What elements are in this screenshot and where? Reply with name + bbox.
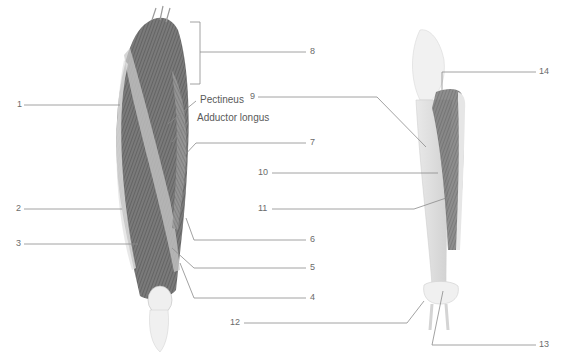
label-11: 11: [258, 204, 267, 213]
anterior-thigh-illustration: [116, 6, 188, 352]
anatomy-diagram: Pectineus Adductor longus 1 2 3 4 5 6 7 …: [0, 0, 565, 362]
leader-7: [182, 143, 306, 158]
label-3: 3: [16, 239, 21, 248]
label-9: 9: [250, 92, 255, 101]
label-pectineus: Pectineus: [200, 95, 244, 105]
label-12: 12: [230, 318, 240, 327]
knee-joint: [149, 310, 168, 352]
label-4: 4: [310, 293, 315, 302]
leader-12: [244, 301, 424, 323]
pelvis-fragment: [413, 30, 445, 100]
label-adductor-longus: Adductor longus: [197, 113, 269, 123]
label-7: 7: [310, 138, 315, 147]
leader-9: [258, 97, 426, 147]
leader-5: [172, 248, 306, 268]
label-6: 6: [310, 235, 315, 244]
label-1: 1: [17, 100, 22, 109]
label-14: 14: [539, 67, 549, 76]
leader-8: [190, 22, 306, 84]
leader-6: [186, 218, 306, 240]
diagram-artwork: [0, 0, 565, 362]
label-13: 13: [539, 340, 549, 349]
label-2: 2: [16, 204, 21, 213]
femur-illustration: [413, 30, 466, 330]
label-8: 8: [310, 47, 315, 56]
tibia-fibula-top: [430, 304, 448, 330]
label-10: 10: [258, 168, 268, 177]
label-5: 5: [310, 263, 315, 272]
